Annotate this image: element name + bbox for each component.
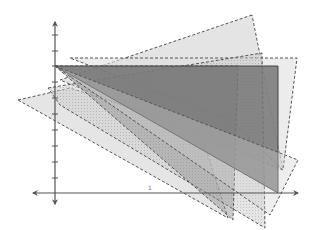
shapes-layer — [18, 15, 298, 228]
diagram-canvas: 1 — [0, 0, 320, 230]
diagram-svg: 1 — [0, 0, 320, 230]
x-tick-label: 1 — [148, 184, 152, 191]
